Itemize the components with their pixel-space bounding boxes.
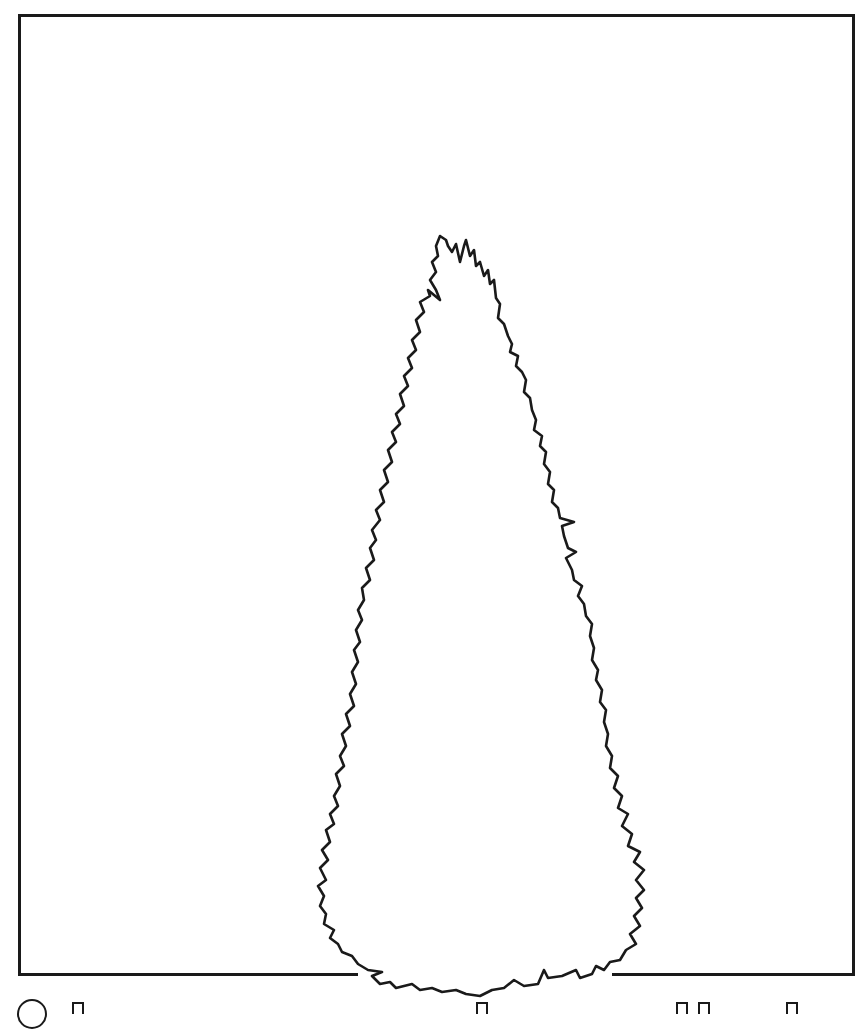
footer-glyph-5	[786, 1002, 798, 1014]
footer-circle-glyph	[17, 999, 47, 1029]
footer-glyph-3	[676, 1002, 688, 1014]
footer-glyph-4	[698, 1002, 710, 1014]
footer-glyph-2	[476, 1002, 488, 1014]
figure-caption: Clipped glyph tops visible along bottom …	[60, 1003, 310, 1016]
